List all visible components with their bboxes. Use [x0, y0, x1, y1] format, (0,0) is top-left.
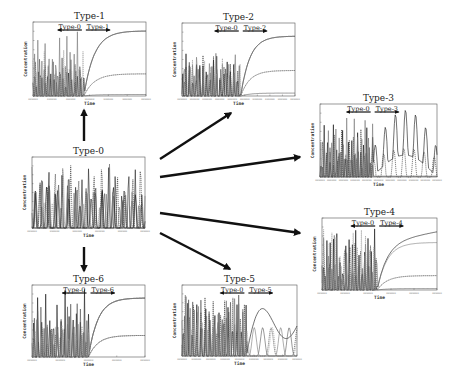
- svg-text:000000: 000000: [363, 292, 373, 295]
- svg-text:000000: 000000: [278, 98, 288, 101]
- y-axis-label: Concentration: [312, 236, 317, 272]
- svg-text:000000: 000000: [409, 292, 419, 295]
- data-series: [182, 297, 297, 356]
- svg-text:000000: 000000: [55, 359, 65, 362]
- svg-text:000000: 000000: [235, 358, 245, 361]
- panel-title: Type-5: [224, 274, 255, 284]
- svg-text:000000: 000000: [177, 98, 187, 101]
- phase-label-after: Type-4: [380, 219, 402, 227]
- panel-title: Type-0: [73, 146, 104, 156]
- svg-text:000000: 000000: [350, 179, 360, 182]
- panel-title: Type-6: [73, 274, 104, 284]
- y-axis-label: Concentration: [22, 175, 27, 211]
- data-series: [182, 56, 295, 97]
- svg-text:000000: 000000: [47, 98, 57, 101]
- svg-text:000000: 000000: [50, 230, 60, 233]
- svg-text:000000: 000000: [66, 98, 76, 101]
- svg-text:000000: 000000: [141, 98, 151, 101]
- y-axis-label: Concentration: [23, 41, 28, 77]
- panel-type6: Type-6ConcentrationTime00000000000000000…: [22, 274, 150, 367]
- phase-label-after: Type-5: [249, 286, 271, 294]
- x-axis-label: Time: [233, 101, 244, 106]
- svg-text:000000: 000000: [104, 98, 114, 101]
- panel-title: Type-3: [363, 93, 394, 103]
- svg-text:000000: 000000: [177, 358, 187, 361]
- x-axis-label: Time: [84, 101, 95, 106]
- svg-text:000000: 000000: [409, 179, 419, 182]
- panel-title: Type-2: [223, 12, 254, 22]
- data-series: [32, 290, 145, 358]
- transition-arrows: [84, 110, 300, 271]
- y-axis-label: Concentration: [310, 123, 315, 159]
- svg-text:000000: 000000: [253, 98, 263, 101]
- svg-text:000000: 000000: [220, 358, 230, 361]
- phase-label-after: Type-3: [376, 105, 398, 113]
- svg-text:000000: 000000: [385, 179, 395, 182]
- svg-text:000000: 000000: [206, 358, 216, 361]
- transition-diagram: Type-0ConcentrationTime00000000000000000…: [0, 0, 454, 381]
- svg-text:000000: 000000: [95, 230, 105, 233]
- data-series: [320, 129, 437, 177]
- svg-text:000000: 000000: [340, 292, 350, 295]
- phase-label-before: Type-0: [58, 23, 80, 31]
- panel-type4: Type-4ConcentrationTime00000000000000000…: [312, 207, 442, 300]
- svg-text:000000: 000000: [190, 98, 200, 101]
- svg-text:000000: 000000: [240, 98, 250, 101]
- svg-text:000000: 000000: [397, 179, 407, 182]
- svg-text:000000: 000000: [265, 98, 275, 101]
- svg-text:000000: 000000: [140, 359, 150, 362]
- phase-label-before: Type-0: [63, 286, 85, 294]
- phase-label-before: Type-0: [221, 286, 243, 294]
- panel-title: Type-4: [364, 207, 395, 217]
- panel-type3: Type-3ConcentrationTime00000000000000000…: [310, 93, 442, 187]
- x-axis-label: Time: [83, 233, 94, 238]
- svg-text:000000: 000000: [278, 358, 288, 361]
- svg-text:000000: 000000: [140, 230, 150, 233]
- svg-text:000000: 000000: [386, 292, 396, 295]
- phase-label-before: Type-0: [352, 219, 374, 227]
- svg-text:000000: 000000: [227, 98, 237, 101]
- x-axis-label: Time: [83, 362, 94, 367]
- svg-text:000000: 000000: [192, 358, 202, 361]
- y-axis-label: Concentration: [172, 42, 177, 78]
- svg-text:000000: 000000: [263, 358, 273, 361]
- phase-label-after: Type-6: [92, 286, 114, 294]
- phase-label-after: Type-2: [244, 24, 266, 32]
- svg-text:000000: 000000: [249, 358, 259, 361]
- phase-label-before: Type-0: [347, 105, 369, 113]
- svg-text:000000: 000000: [317, 292, 327, 295]
- y-axis-label: Concentration: [22, 303, 27, 339]
- panel-type5: Type-5ConcentrationTime00000000000000000…: [172, 274, 302, 366]
- svg-text:000000: 000000: [118, 230, 128, 233]
- svg-text:000000: 000000: [28, 98, 38, 101]
- panel-type1: Type-1ConcentrationTime00000000000000000…: [23, 11, 151, 106]
- svg-text:000000: 000000: [202, 98, 212, 101]
- svg-text:000000: 000000: [432, 292, 442, 295]
- arrow-to-type4: [160, 213, 300, 233]
- svg-text:000000: 000000: [432, 179, 442, 182]
- phase-label-after: Type-1: [87, 23, 109, 31]
- svg-text:000000: 000000: [85, 98, 95, 101]
- arrow-to-type5: [160, 233, 230, 269]
- panel-type2: Type-2ConcentrationTime00000000000000000…: [172, 12, 300, 106]
- phase-label-before: Type-0: [215, 24, 237, 32]
- panel-type0: Type-0ConcentrationTime00000000000000000…: [22, 146, 150, 238]
- svg-text:000000: 000000: [215, 98, 225, 101]
- svg-text:000000: 000000: [292, 358, 302, 361]
- plot-frame: [320, 104, 437, 177]
- svg-text:000000: 000000: [421, 179, 431, 182]
- y-axis-label: Concentration: [172, 303, 177, 339]
- x-axis-label: Time: [374, 295, 385, 300]
- svg-text:000000: 000000: [327, 179, 337, 182]
- svg-text:000000: 000000: [290, 98, 300, 101]
- svg-text:000000: 000000: [27, 230, 37, 233]
- panels: Type-0ConcentrationTime00000000000000000…: [22, 11, 442, 367]
- svg-text:000000: 000000: [339, 179, 349, 182]
- svg-text:000000: 000000: [362, 179, 372, 182]
- svg-text:000000: 000000: [122, 98, 132, 101]
- svg-text:000000: 000000: [72, 230, 82, 233]
- arrow-to-type3: [160, 157, 300, 177]
- x-axis-label: Time: [373, 182, 384, 187]
- arrow-to-type2: [160, 113, 231, 159]
- svg-text:000000: 000000: [315, 179, 325, 182]
